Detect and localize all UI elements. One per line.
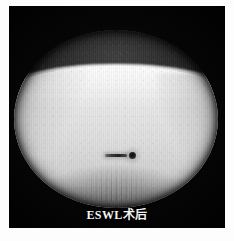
figure-root: ESWL术后 [0, 0, 234, 241]
radiopaque-marker-group [105, 149, 141, 162]
linear-marker [105, 154, 127, 157]
round-marker [129, 152, 136, 159]
xray-panel: ESWL术后 [9, 6, 225, 228]
figure-caption: ESWL术后 [9, 209, 225, 222]
fluoroscopic-field-of-view [14, 30, 218, 208]
